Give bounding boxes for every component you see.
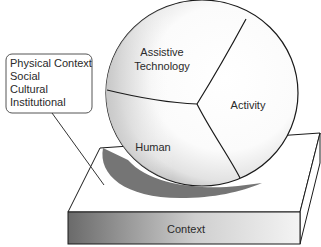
platform-label-context: Context [167,223,205,235]
callout-leader-line [52,113,104,185]
callout-list: Physical Context Social Cultural Institu… [10,57,92,109]
segment-label-human: Human [135,141,170,153]
callout-item-physical-context: Physical Context [10,57,92,70]
callout-item-institutional: Institutional [10,96,92,109]
segment-label-technology: Technology [134,60,190,72]
hat-model-diagram: Assistive Technology Activity Human Cont… [0,0,321,247]
segment-label-assistive: Assistive [140,46,183,58]
callout-item-cultural: Cultural [10,83,92,96]
segment-label-activity: Activity [231,99,266,111]
callout-item-social: Social [10,70,92,83]
